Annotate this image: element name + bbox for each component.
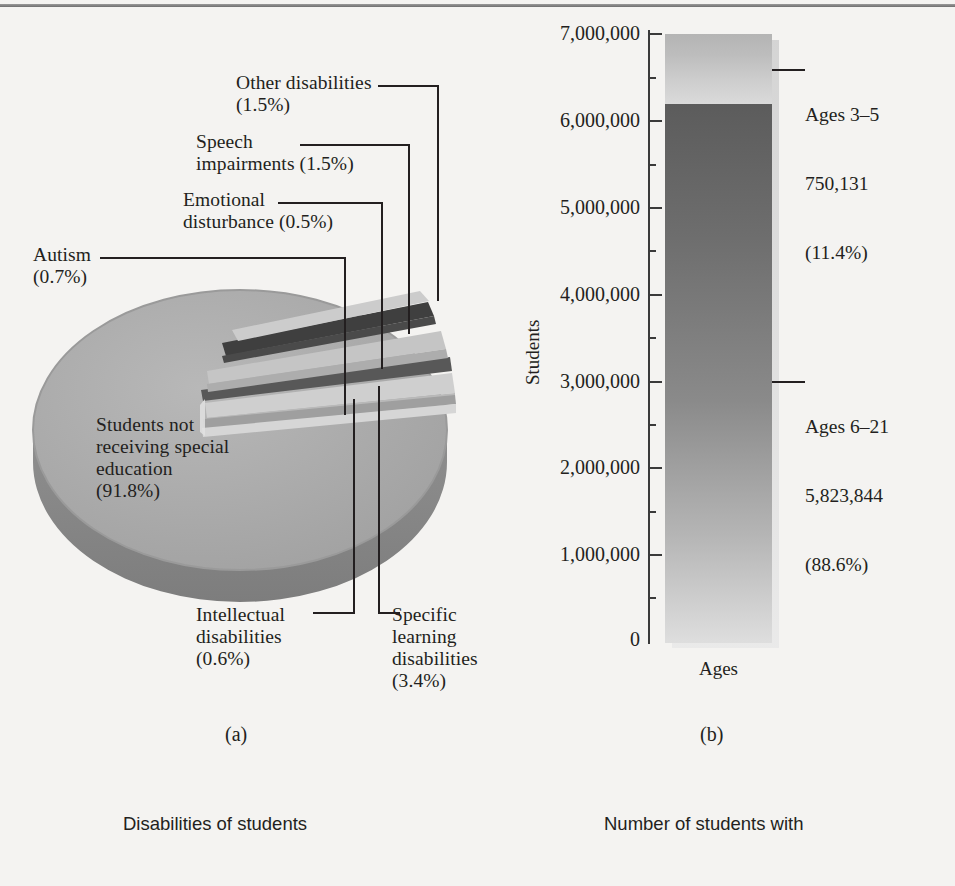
y-tick-label-2000000: 2,000,000 <box>500 456 640 479</box>
leader-ages-3-5 <box>772 69 805 71</box>
pie-label-emotional-disturbance: Emotional disturbance (0.5%) <box>183 189 333 233</box>
bar-callout-ages-3-5-line3: (11.4%) <box>805 241 879 264</box>
pie-label-autism: Autism (0.7%) <box>33 244 91 288</box>
bar-segment-ages-6-21[interactable] <box>665 104 772 643</box>
leader-autism-v <box>344 257 346 415</box>
y-tick-label-3000000: 3,000,000 <box>500 370 640 393</box>
y-tick-label-4000000: 4,000,000 <box>500 283 640 306</box>
leader-speech-impairments-v <box>408 144 410 334</box>
pie-label-specific-learning-disabilities: Specific learning disabilities (3.4%) <box>392 604 478 692</box>
y-tick-4000000 <box>649 294 662 296</box>
pie-label-specific-line1: Specific <box>392 604 478 626</box>
pie-label-emotional-disturbance-line2: disturbance (0.5%) <box>183 211 333 233</box>
bar-callout-ages-3-5-line1: Ages 3–5 <box>805 103 879 126</box>
bar-callout-ages-3-5: Ages 3–5 750,131 (11.4%) <box>805 57 879 310</box>
pie-label-main-line3: education <box>96 458 229 480</box>
pie-label-emotional-disturbance-line1: Emotional <box>183 189 333 211</box>
leader-ages-6-21 <box>772 381 805 383</box>
y-tick-label-1000000: 1,000,000 <box>500 543 640 566</box>
caption-letter-a: (a) <box>225 723 247 746</box>
y-tick-label-7000000: 7,000,000 <box>500 22 640 45</box>
y-tick-2000000 <box>649 467 662 469</box>
leader-other-disabilities-v <box>437 85 439 301</box>
y-axis-title: Students <box>522 320 544 385</box>
y-tick-3000000 <box>649 381 662 383</box>
caption-body-b: Number of students with disabilities rec… <box>604 762 831 886</box>
pie-label-autism-line1: Autism <box>33 244 91 266</box>
y-tick-minor-4500000 <box>649 250 656 252</box>
y-tick-minor-3500000 <box>649 337 656 339</box>
y-tick-6000000 <box>649 120 662 122</box>
leader-intellectual-disabilities-v <box>353 399 355 613</box>
pie-label-specific-line3: disabilities <box>392 648 478 670</box>
caption-letter-b: (b) <box>700 723 723 746</box>
pie-label-main-line1: Students not <box>96 414 229 436</box>
pie-label-intellectual-line2: disabilities <box>196 626 285 648</box>
pie-label-speech-impairments-line1: Speech <box>196 131 354 153</box>
y-tick-minor-1500000 <box>649 511 656 513</box>
pie-label-speech-impairments-line2: impairments (1.5%) <box>196 153 354 175</box>
pie-label-main-line2: receiving special <box>96 436 229 458</box>
bar-callout-ages-6-21-line1: Ages 6–21 <box>805 415 889 438</box>
bar-segment-ages-3-5[interactable] <box>665 34 772 104</box>
pie-chart-panel: Other disabilities (1.5%) Speech impairm… <box>0 0 500 720</box>
pie-label-intellectual-line3: (0.6%) <box>196 648 285 670</box>
pie-label-specific-line4: (3.4%) <box>392 670 478 692</box>
leader-autism-h <box>100 257 346 259</box>
y-tick-1000000 <box>649 554 662 556</box>
bar-chart-panel: 7,000,000 6,000,000 5,000,000 4,000,000 … <box>500 0 955 720</box>
figure-root: Other disabilities (1.5%) Speech impairm… <box>0 0 955 886</box>
bar-callout-ages-3-5-line2: 750,131 <box>805 172 879 195</box>
y-tick-5000000 <box>649 207 662 209</box>
y-tick-label-5000000: 5,000,000 <box>500 196 640 219</box>
pie-label-intellectual-line1: Intellectual <box>196 604 285 626</box>
y-tick-minor-500000 <box>649 597 656 599</box>
leader-intellectual-disabilities-h <box>313 612 355 614</box>
leader-specific-learning-v <box>378 386 380 613</box>
pie-label-other-disabilities-line2: (1.5%) <box>236 94 372 116</box>
bar-callout-ages-6-21-line3: (88.6%) <box>805 553 889 576</box>
y-tick-minor-2500000 <box>649 424 656 426</box>
pie-label-intellectual-disabilities: Intellectual disabilities (0.6%) <box>196 604 285 670</box>
pie-label-specific-line2: learning <box>392 626 478 648</box>
caption-a-line1: Disabilities of students <box>123 812 351 837</box>
bar-callout-ages-6-21: Ages 6–21 5,823,844 (88.6%) <box>805 369 889 622</box>
leader-emotional-disturbance-v <box>381 202 383 369</box>
y-tick-minor-5500000 <box>649 164 656 166</box>
bar-callout-ages-6-21-line2: 5,823,844 <box>805 484 889 507</box>
pie-label-other-disabilities-line1: Other disabilities <box>236 72 372 94</box>
y-tick-minor-6500000 <box>649 77 656 79</box>
leader-other-disabilities-h <box>378 85 439 87</box>
pie-label-students-not-receiving: Students not receiving special education… <box>96 414 229 502</box>
caption-b-line1: Number of students with <box>604 812 831 837</box>
pie-label-speech-impairments: Speech impairments (1.5%) <box>196 131 354 175</box>
pie-label-other-disabilities: Other disabilities (1.5%) <box>236 72 372 116</box>
x-axis-title: Ages <box>665 658 772 680</box>
caption-body-a: Disabilities of students ages 6–21 recei… <box>123 762 351 886</box>
y-tick-7000000 <box>649 33 662 35</box>
pie-label-main-line4: (91.8%) <box>96 480 229 502</box>
y-tick-label-6000000: 6,000,000 <box>500 109 640 132</box>
pie-label-autism-line2: (0.7%) <box>33 266 91 288</box>
y-tick-label-0: 0 <box>500 628 640 651</box>
